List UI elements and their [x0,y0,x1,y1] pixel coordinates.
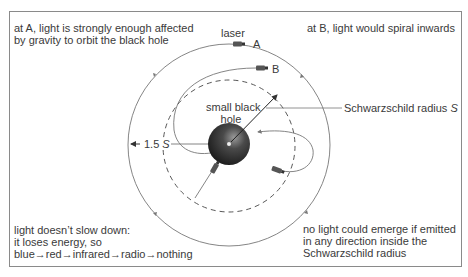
black-hole-label: small black hole [206,101,256,125]
annotation-line: blue→red→infrared→radio→nothing [14,248,193,260]
black-hole-label-line: hole [206,113,256,125]
point-a-label: A [253,38,260,50]
schwarzschild-symbol: S [450,102,457,114]
schwarzschild-text: Schwarzschild radius [344,102,450,114]
black-hole-label-line: small black [206,101,256,113]
laser-right-icon [271,166,285,175]
annotation-line: in any direction inside the [303,235,456,247]
laser-bottom-icon [210,160,221,174]
annotation-line: light doesn’t slow down: [14,224,193,236]
annotation-top-right: at B, light would spiral inwards [307,22,455,34]
hook-path [258,131,313,172]
annotation-bottom-right: no light could emerge if emitted in any … [303,223,456,259]
schwarzschild-radius-label: Schwarzschild radius S [344,102,458,114]
annotation-top-left: at A, light is strongly enough affected … [14,22,194,46]
annotation-line: it loses energy, so [14,236,193,248]
radius-factor-label: 1.5 S [143,138,171,150]
annotation-line: Schwarzschild radius [303,247,456,259]
annotation-bottom-left: light doesn’t slow down: it loses energy… [14,224,193,260]
laser-label: laser [221,27,245,39]
annotation-line: by gravity to orbit the black hole [14,34,194,46]
radial-beam [195,168,214,198]
radius-factor-value: 1.5 [144,138,159,150]
annotation-line: at A, light is strongly enough affected [14,22,194,34]
laser-a-icon [233,42,245,47]
black-hole-center [227,142,231,146]
annotation-line: no light could emerge if emitted [303,223,456,235]
point-b-label: B [272,63,279,75]
laser-b-icon [256,66,268,71]
radius-factor-symbol: S [162,138,169,150]
